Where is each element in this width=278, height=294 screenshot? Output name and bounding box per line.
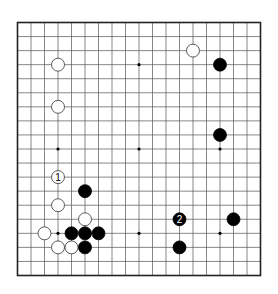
stone-circle [79, 227, 92, 240]
move-number-label: 2 [177, 214, 183, 225]
white-stone [52, 100, 65, 113]
stone-circle [92, 227, 105, 240]
stone-circle [79, 185, 92, 198]
white-stone [52, 199, 65, 212]
stone-circle [65, 227, 78, 240]
stone-circle [52, 241, 65, 254]
black-stone [79, 227, 92, 240]
move-number-label: 1 [55, 172, 61, 183]
stone-circle [214, 128, 227, 141]
star-point [137, 232, 140, 235]
black-stone [79, 241, 92, 254]
stone-circle [79, 213, 92, 226]
stone-circle [65, 241, 78, 254]
star-point [56, 232, 59, 235]
star-point [56, 147, 59, 150]
stone-circle [173, 241, 186, 254]
white-stone [79, 213, 92, 226]
stone-circle [187, 44, 200, 57]
go-board: 12 [0, 0, 278, 294]
black-stone: 2 [173, 213, 186, 226]
black-stone [79, 185, 92, 198]
white-stone [52, 241, 65, 254]
stone-circle [52, 58, 65, 71]
stone-circle [79, 241, 92, 254]
white-stone [38, 227, 51, 240]
white-stone [52, 58, 65, 71]
black-stone [214, 128, 227, 141]
black-stone [65, 227, 78, 240]
black-stone [92, 227, 105, 240]
black-stone [214, 58, 227, 71]
white-stone [65, 241, 78, 254]
black-stone [173, 241, 186, 254]
white-stone: 1 [52, 171, 65, 184]
star-point [137, 63, 140, 66]
star-point [218, 147, 221, 150]
stone-circle [214, 58, 227, 71]
black-stone [227, 213, 240, 226]
star-point [218, 232, 221, 235]
stone-circle [52, 199, 65, 212]
stone-circle [227, 213, 240, 226]
white-stone [187, 44, 200, 57]
stone-circle [52, 100, 65, 113]
stone-circle [38, 227, 51, 240]
star-point [137, 147, 140, 150]
